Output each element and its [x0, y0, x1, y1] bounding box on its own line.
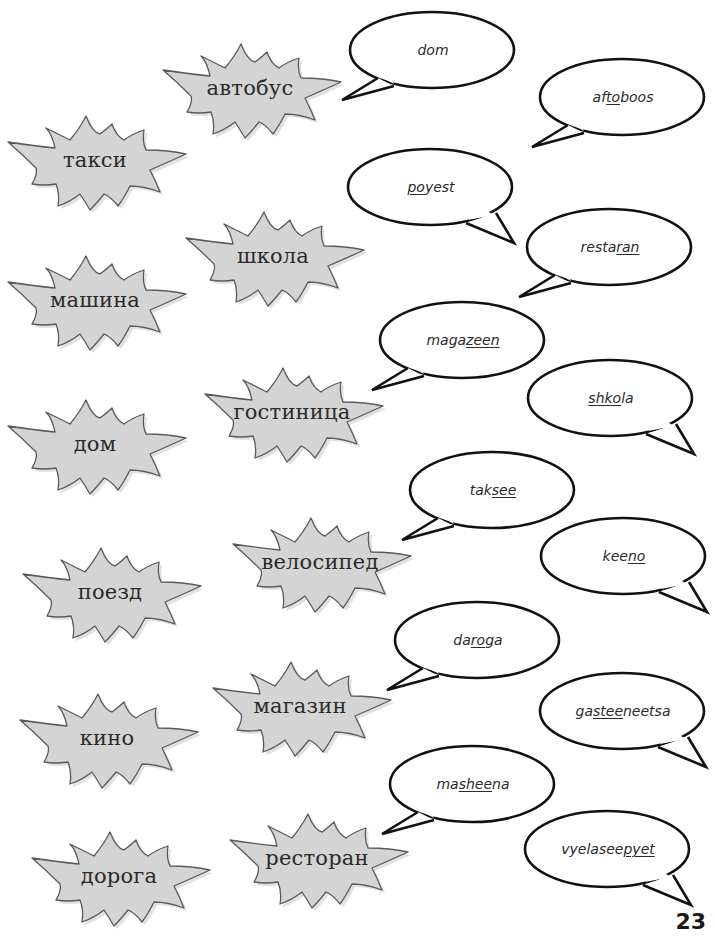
pronunciation-bubble: restaran: [525, 207, 695, 307]
pronunciation-label: restaran: [525, 207, 695, 287]
syllable: yest: [425, 179, 455, 195]
syllable: neetsa: [623, 703, 670, 719]
stressed-syllable: see: [492, 482, 517, 498]
syllable: vyelasee: [561, 841, 623, 857]
russian-word-label: дорога: [24, 826, 214, 926]
syllable: ga: [485, 632, 502, 648]
syllable: na: [492, 776, 509, 792]
pronunciation-label: vyelaseepyet: [523, 809, 693, 889]
syllable: maga: [426, 332, 466, 348]
pronunciation-bubble: dom: [348, 10, 518, 110]
pronunciation-label: daroga: [393, 600, 563, 680]
russian-word-star: гостиница: [197, 362, 387, 462]
russian-word-star: велосипед: [225, 512, 415, 612]
pronunciation-bubble: poyest: [346, 147, 516, 247]
russian-word-label: такси: [0, 110, 190, 210]
stressed-syllable: pyet: [623, 841, 654, 857]
russian-word-star: магазин: [205, 656, 395, 756]
russian-word-label: кино: [12, 688, 202, 788]
pronunciation-bubble: shkola: [526, 358, 696, 458]
pronunciation-label: dom: [348, 10, 518, 90]
syllable: ga: [576, 703, 593, 719]
syllable: da: [453, 632, 470, 648]
stressed-syllable: no: [628, 548, 645, 564]
syllable: tak: [470, 482, 492, 498]
russian-word-star: машина: [0, 250, 190, 350]
vocabulary-matching-worksheet: автобустаксишколамашинагостиницадомвелос…: [0, 0, 714, 938]
russian-word-label: гостиница: [197, 362, 387, 462]
stressed-syllable: ro: [471, 632, 485, 648]
russian-word-star: поезд: [15, 542, 205, 642]
syllable: la: [621, 390, 633, 406]
pronunciation-bubble: magazeen: [378, 300, 548, 400]
stressed-syllable: stee: [593, 703, 623, 719]
syllable: resta: [581, 239, 617, 255]
stressed-syllable: zeen: [466, 332, 499, 348]
russian-word-label: магазин: [205, 656, 395, 756]
russian-word-label: машина: [0, 250, 190, 350]
pronunciation-bubble: gasteeneetsa: [538, 671, 708, 771]
page-number: 23: [675, 909, 706, 934]
russian-word-label: школа: [178, 206, 368, 306]
pronunciation-label: poyest: [346, 147, 516, 227]
russian-word-star: дорога: [24, 826, 214, 926]
stressed-syllable: shko: [588, 390, 621, 406]
russian-word-star: дом: [0, 394, 190, 494]
syllable: af: [593, 89, 607, 105]
pronunciation-label: aftoboos: [538, 57, 708, 137]
russian-word-star: школа: [178, 206, 368, 306]
syllable: dom: [417, 42, 448, 58]
stressed-syllable: to: [606, 89, 620, 105]
pronunciation-bubble: aftoboos: [538, 57, 708, 157]
russian-word-star: такси: [0, 110, 190, 210]
stressed-syllable: shee: [459, 776, 492, 792]
stressed-syllable: po: [407, 179, 424, 195]
russian-word-star: ресторан: [222, 808, 412, 908]
pronunciation-label: shkola: [526, 358, 696, 438]
syllable: kee: [603, 548, 628, 564]
pronunciation-bubble: keeno: [539, 516, 709, 616]
russian-word-label: велосипед: [225, 512, 415, 612]
syllable: ma: [436, 776, 458, 792]
russian-word-label: дом: [0, 394, 190, 494]
stressed-syllable: ran: [616, 239, 639, 255]
russian-word-star: кино: [12, 688, 202, 788]
syllable: boos: [620, 89, 653, 105]
pronunciation-bubble: vyelaseepyet: [523, 809, 693, 909]
pronunciation-label: magazeen: [378, 300, 548, 380]
pronunciation-label: keeno: [539, 516, 709, 596]
pronunciation-label: gasteeneetsa: [538, 671, 708, 751]
russian-word-label: ресторан: [222, 808, 412, 908]
russian-word-label: поезд: [15, 542, 205, 642]
